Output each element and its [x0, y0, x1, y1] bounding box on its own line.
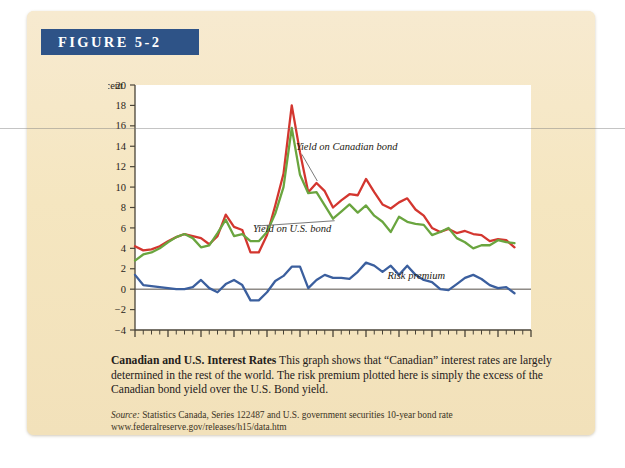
annotation-canadian-bond: Yield on Canadian bond	[296, 141, 398, 152]
annotation-risk-premium: Risk premium	[386, 270, 445, 281]
annotation-us-bond: Yield on U.S. bond	[253, 223, 332, 234]
source-url: www.federalreserve.gov/releases/h15/data…	[111, 421, 557, 433]
figure-caption: Canadian and U.S. Interest Rates This gr…	[111, 354, 557, 398]
source-text: Statistics Canada, Series 122487 and U.S…	[140, 410, 453, 420]
source-line: Source: Statistics Canada, Series 122487…	[111, 409, 557, 421]
y-tick-label: 8	[121, 202, 126, 213]
figure-number-banner: FIGURE 5-2	[41, 29, 199, 55]
figure-number-label: FIGURE 5-2	[41, 34, 161, 51]
figure-card: FIGURE 5-2 −4−20246810121416182019621966…	[27, 11, 595, 435]
series-line-3	[135, 263, 515, 301]
scan-artifact-line	[0, 128, 625, 129]
y-tick-label: 12	[116, 161, 127, 172]
y-tick-label: −2	[115, 304, 126, 315]
y-axis-title: Percent	[108, 80, 123, 91]
y-tick-label: 4	[121, 243, 127, 254]
y-tick-label: 14	[116, 141, 127, 152]
caption-paragraph: Canadian and U.S. Interest Rates This gr…	[111, 354, 557, 398]
chart-area: −4−2024681012141618201962196619701974197…	[108, 71, 558, 339]
y-tick-label: 18	[116, 100, 127, 111]
interest-rates-line-chart: −4−2024681012141618201962196619701974197…	[108, 71, 558, 339]
y-tick-label: −4	[115, 325, 127, 336]
caption-headline: Canadian and U.S. Interest Rates	[111, 354, 276, 367]
y-tick-label: 16	[116, 120, 127, 131]
source-label: Source:	[111, 410, 140, 420]
y-tick-label: 2	[121, 263, 126, 274]
y-tick-label: 0	[121, 284, 126, 295]
y-tick-label: 6	[121, 223, 126, 234]
figure-source: Source: Statistics Canada, Series 122487…	[111, 409, 557, 434]
y-tick-label: 10	[116, 182, 127, 193]
